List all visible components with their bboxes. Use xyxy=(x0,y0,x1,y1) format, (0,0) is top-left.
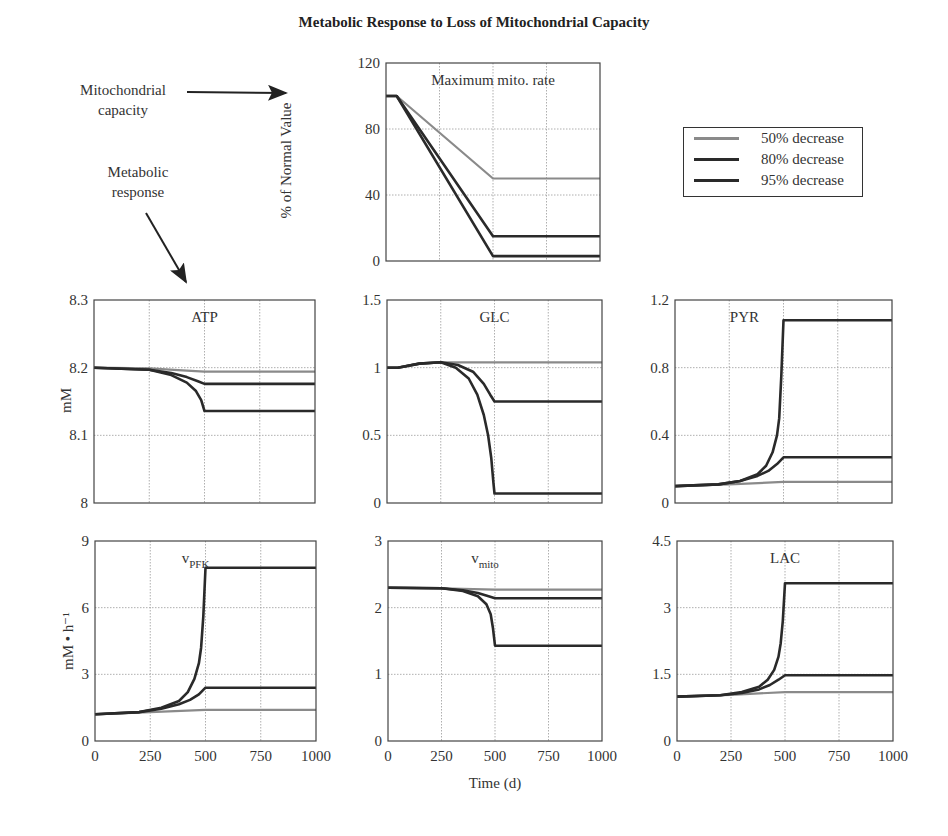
y-tick-label: 1.5 xyxy=(362,292,381,308)
arrow-down-icon xyxy=(146,213,186,282)
y-tick-label: 2 xyxy=(375,600,383,616)
legend-item-50: 50% decrease xyxy=(684,128,862,149)
x-tick-label: 750 xyxy=(828,748,851,764)
plot-title: PYR xyxy=(730,309,759,325)
chart-vpfk: 036902505007501000vPFK xyxy=(82,533,332,764)
y-tick-label: 0 xyxy=(374,495,382,511)
y-tick-label: 8.1 xyxy=(69,427,88,443)
x-tick-label: 250 xyxy=(720,748,743,764)
legend-label: 50% decrease xyxy=(761,130,844,147)
y-tick-label: 3 xyxy=(82,666,90,682)
y-tick-label: 6 xyxy=(82,600,90,616)
y-tick-label: 1.2 xyxy=(650,292,669,308)
arrow-right-icon xyxy=(187,92,286,93)
plot-title: GLC xyxy=(480,309,510,325)
x-tick-label: 0 xyxy=(384,748,392,764)
x-tick-label: 750 xyxy=(250,748,273,764)
x-tick-label: 250 xyxy=(139,748,162,764)
y-tick-label: 1.5 xyxy=(652,666,671,682)
x-axis-label: Time (d) xyxy=(430,775,560,792)
y-tick-label: 0.5 xyxy=(362,427,381,443)
chart-atp: 88.18.28.3ATP xyxy=(69,292,315,511)
y-tick-label: 3 xyxy=(664,600,672,616)
legend-swatch xyxy=(694,158,739,161)
legend-label: 95% decrease xyxy=(761,172,844,189)
legend-swatch xyxy=(694,179,739,182)
y-tick-label: 8.3 xyxy=(69,292,88,308)
x-tick-label: 1000 xyxy=(587,748,617,764)
y-axis-label-row1: mM xyxy=(58,381,75,421)
y-tick-label: 0 xyxy=(82,733,90,749)
y-tick-label: 0.4 xyxy=(650,427,669,443)
plot-title: Maximum mito. rate xyxy=(431,72,555,88)
series-line xyxy=(94,368,315,411)
chart-pyr: 00.40.81.2PYR xyxy=(650,292,892,511)
y-tick-label: 40 xyxy=(365,187,380,203)
x-tick-label: 500 xyxy=(194,748,217,764)
chart-lac: 01.534.502505007501000LAC xyxy=(652,533,908,764)
y-tick-label: 1 xyxy=(375,666,383,682)
legend-label: 80% decrease xyxy=(761,151,844,168)
y-tick-label: 8 xyxy=(81,495,89,511)
y-axis-label-top: % of Normal Value xyxy=(278,96,295,226)
chart-glc: 00.511.5GLC xyxy=(362,292,602,511)
chart-vmito: 012302505007501000vmito xyxy=(375,533,618,764)
figure-canvas: 04080120Maximum mito. rate88.18.28.3ATP0… xyxy=(0,0,948,836)
y-tick-label: 8.2 xyxy=(69,360,88,376)
y-tick-label: 4.5 xyxy=(652,533,671,549)
legend-item-95: 95% decrease xyxy=(684,170,862,191)
x-tick-label: 0 xyxy=(673,748,681,764)
y-tick-label: 0 xyxy=(662,495,670,511)
x-tick-label: 250 xyxy=(430,748,453,764)
y-tick-label: 3 xyxy=(375,533,383,549)
x-tick-label: 500 xyxy=(774,748,797,764)
y-tick-label: 0 xyxy=(375,733,383,749)
y-tick-label: 9 xyxy=(82,533,90,549)
y-axis-label-row2: mM • h⁻¹ xyxy=(59,591,77,691)
x-tick-label: 0 xyxy=(91,748,99,764)
plot-title: LAC xyxy=(770,550,800,566)
legend-swatch xyxy=(694,137,739,140)
x-tick-label: 1000 xyxy=(878,748,908,764)
y-tick-label: 1 xyxy=(374,360,382,376)
y-tick-label: 0 xyxy=(373,253,381,269)
y-tick-label: 0 xyxy=(664,733,672,749)
legend-item-80: 80% decrease xyxy=(684,149,862,170)
x-tick-label: 1000 xyxy=(301,748,331,764)
y-tick-label: 80 xyxy=(365,121,380,137)
plot-title: ATP xyxy=(191,309,218,325)
y-tick-label: 0.8 xyxy=(650,360,669,376)
legend: 50% decrease 80% decrease 95% decrease xyxy=(683,127,863,197)
chart-mito: 04080120Maximum mito. rate xyxy=(358,55,601,269)
y-tick-label: 120 xyxy=(358,55,381,71)
x-tick-label: 750 xyxy=(537,748,560,764)
x-tick-label: 500 xyxy=(484,748,507,764)
